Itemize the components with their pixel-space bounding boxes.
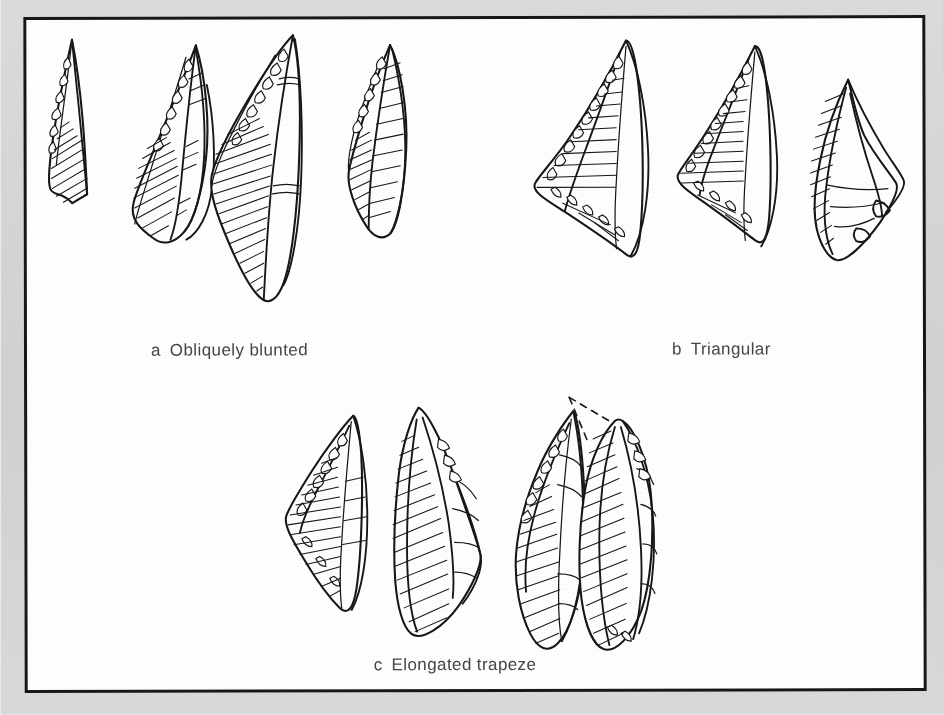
artifact-triangular-point-2 — [677, 46, 777, 246]
artifact-elongated-trapeze-1 — [286, 416, 368, 611]
caption-group-a: aObliquely blunted — [151, 341, 308, 358]
artifact-obliquely-blunted-point-1 — [49, 40, 88, 204]
figure-plate-inner: .out { fill:#ffffff; stroke:#15171a; str… — [26, 18, 923, 690]
group-a-obliquely-blunted — [49, 35, 407, 302]
artifact-elongated-trapeze-2 — [393, 408, 481, 636]
caption-group-b: bTriangular — [672, 340, 771, 357]
caption-c-label: c — [374, 655, 383, 674]
artifact-triangular-point-1 — [534, 40, 648, 256]
caption-c-title: Elongated trapeze — [392, 655, 537, 674]
artifact-elongated-trapeze-4 — [569, 397, 657, 650]
artifact-obliquely-blunted-point-4 — [348, 45, 407, 237]
page-background: .out { fill:#ffffff; stroke:#15171a; str… — [0, 0, 943, 715]
caption-b-title: Triangular — [691, 339, 771, 358]
artifact-obliquely-blunted-point-3 — [211, 35, 302, 301]
artifact-obliquely-blunted-point-2 — [132, 45, 214, 242]
group-b-triangular — [534, 40, 904, 261]
caption-b-label: b — [672, 340, 682, 359]
caption-a-title: Obliquely blunted — [170, 340, 308, 359]
caption-group-c: cElongated trapeze — [374, 656, 537, 673]
artifact-elongated-trapeze-3 — [515, 411, 585, 648]
group-c-elongated-trapeze — [286, 397, 657, 650]
figure-plate: .out { fill:#ffffff; stroke:#15171a; str… — [23, 15, 926, 693]
caption-a-label: a — [151, 341, 161, 360]
artifact-triangular-point-3 — [810, 80, 904, 261]
